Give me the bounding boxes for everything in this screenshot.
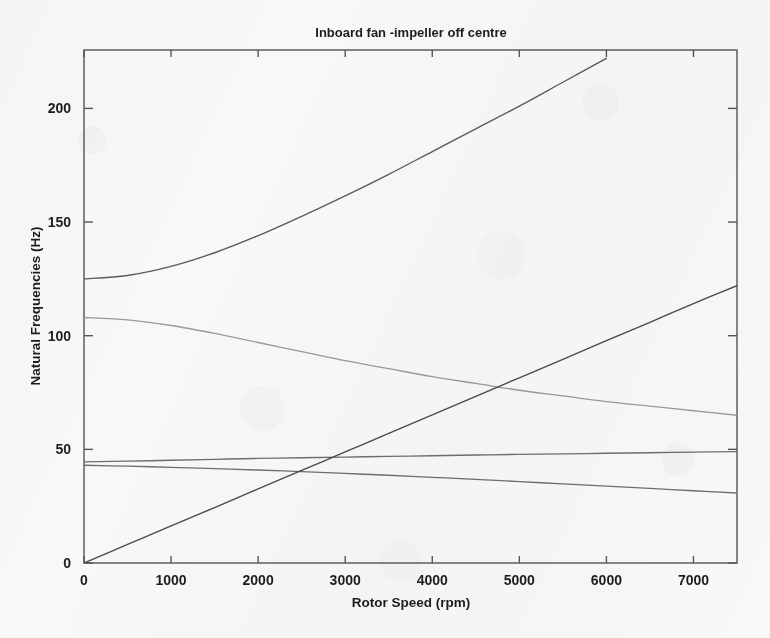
y-tick-label: 0: [63, 555, 71, 571]
curve-mode-3-near-constant-forward: [84, 452, 737, 462]
curve-mode-4-near-constant-backward: [84, 465, 737, 493]
x-tick-label: 0: [80, 572, 88, 588]
axes-frame: [84, 50, 737, 563]
y-tick-label: 100: [48, 328, 72, 344]
x-tick-label: 2000: [243, 572, 274, 588]
chart-figure: Inboard fan -impeller off centre 0100020…: [0, 0, 770, 638]
y-tick-label: 50: [55, 441, 71, 457]
curve-mode-2-backward-whirl: [84, 318, 737, 416]
x-axis-ticks: 01000200030004000500060007000: [80, 50, 709, 588]
y-tick-label: 200: [48, 100, 72, 116]
x-tick-label: 7000: [678, 572, 709, 588]
chart-title: Inboard fan -impeller off centre: [315, 25, 506, 40]
x-tick-label: 4000: [417, 572, 448, 588]
curve-mode-1-forward-whirl: [84, 58, 606, 278]
data-curves: [84, 58, 737, 563]
x-tick-label: 3000: [330, 572, 361, 588]
x-tick-label: 1000: [155, 572, 186, 588]
y-axis-label: Natural Frequencies (Hz): [28, 226, 43, 385]
x-axis-label: Rotor Speed (rpm): [352, 595, 471, 610]
y-tick-label: 150: [48, 214, 72, 230]
y-axis-ticks: 050100150200: [48, 100, 737, 571]
campbell-diagram-plot: Inboard fan -impeller off centre 0100020…: [0, 0, 770, 638]
x-tick-label: 6000: [591, 572, 622, 588]
x-tick-label: 5000: [504, 572, 535, 588]
